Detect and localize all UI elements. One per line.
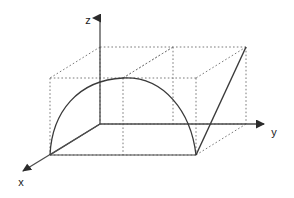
box-edge-depth-top-left — [50, 47, 100, 78]
axes-group — [23, 18, 264, 171]
y-axis-label: y — [271, 126, 277, 138]
plot-canvas: x y z — [0, 0, 294, 198]
interior-guide-lines — [123, 47, 173, 155]
ridge-line — [196, 47, 246, 155]
x-axis-label: x — [18, 176, 24, 188]
bounding-box-depth-edges — [50, 47, 246, 155]
guide-depth-peak-to-far-top — [123, 47, 173, 78]
figure-root: x y z — [0, 0, 294, 198]
z-axis-label: z — [85, 14, 91, 26]
base-edge-near-left — [50, 124, 100, 155]
